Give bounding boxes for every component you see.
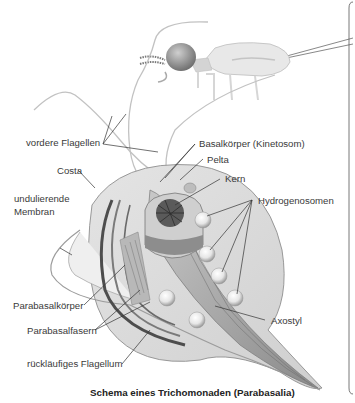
label-undulating-membrane-1: undulierende bbox=[14, 193, 69, 204]
label-nucleus: Kern bbox=[225, 173, 245, 184]
figure-caption: Schema eines Trichomonaden (Parabasalia) bbox=[90, 387, 295, 398]
label-costa: Costa bbox=[57, 165, 82, 176]
label-parabasal-body: Parabasalkörper bbox=[13, 300, 83, 311]
label-pelta: Pelta bbox=[207, 154, 229, 165]
label-anterior-flagella: vordere Flagellen bbox=[26, 137, 100, 148]
label-basal-body: Basalkörper (Kinetosom) bbox=[199, 138, 305, 149]
callout-frame bbox=[349, 2, 353, 394]
label-axostyle: Axostyl bbox=[271, 315, 302, 326]
trichomonad-diagram: vordere Flagellen Basalkörper (Kinetosom… bbox=[0, 0, 355, 403]
label-recurrent-flagellum: rückläufiges Flagellum bbox=[27, 358, 122, 369]
label-undulating-membrane-2: Membran bbox=[14, 206, 55, 217]
label-parabasal-fibers: Parabasalfasern bbox=[27, 325, 97, 336]
label-hydrogenosomes: Hydrogenosomen bbox=[258, 195, 334, 206]
termite-illustration bbox=[140, 43, 290, 100]
